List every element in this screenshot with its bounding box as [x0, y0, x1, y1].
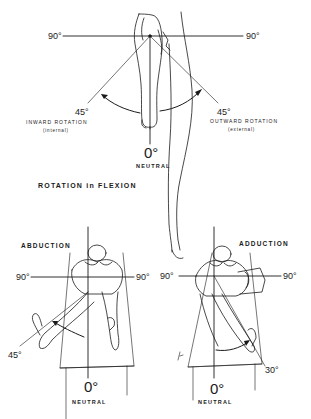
abduction-right-90-label: 90° — [136, 273, 150, 282]
rotation-left-90-label: 90° — [48, 32, 62, 41]
abduction-panel-title: ABDUCTION — [21, 243, 71, 250]
rotation-inward-45-label: 45° — [75, 108, 89, 117]
inward-rotation-arrow — [102, 95, 140, 113]
rotation-outward-45-label: 45° — [217, 108, 231, 117]
rotation-neutral-0-label: 0° — [144, 145, 158, 160]
outward-rotation-arrow — [160, 90, 201, 111]
adduction-30-label: 30° — [265, 366, 279, 375]
abduction-45-label: 45° — [8, 351, 22, 360]
abduction-figure — [20, 227, 134, 419]
abduction-neutral-label: NEUTRAL — [72, 400, 107, 406]
rotation-figure — [63, 12, 243, 259]
abduction-neutral-0-label: 0° — [84, 379, 98, 394]
inward-rotation-sublabel: (internal) — [43, 129, 69, 134]
rotation-neutral-label: NEUTRAL — [136, 164, 171, 170]
outward-rotation-label: OUTWARD ROTATION — [210, 119, 278, 124]
abduction-left-90-label: 90° — [16, 273, 30, 282]
rotation-right-90-label: 90° — [246, 32, 260, 41]
standing-leg-outline — [177, 12, 193, 250]
table-outline — [60, 253, 134, 368]
adduction-neutral-0-label: 0° — [210, 381, 224, 396]
reference-line-outward-45 — [150, 36, 218, 103]
adduction-panel-title: ADDUCTION — [239, 241, 289, 248]
adduction-neutral-label: NEUTRAL — [198, 400, 233, 406]
reference-line-inward-45 — [88, 36, 150, 103]
inward-rotation-label: INWARD ROTATION — [26, 120, 88, 125]
adduction-right-90-label: 90° — [283, 272, 297, 281]
adduction-left-90-label: 90° — [160, 272, 174, 281]
rotation-panel-title: ROTATION in FLEXION — [38, 182, 137, 189]
adduction-arrow — [216, 342, 248, 351]
outward-rotation-sublabel: (external) — [228, 128, 255, 133]
hip-range-of-motion-diagram — [0, 0, 311, 419]
